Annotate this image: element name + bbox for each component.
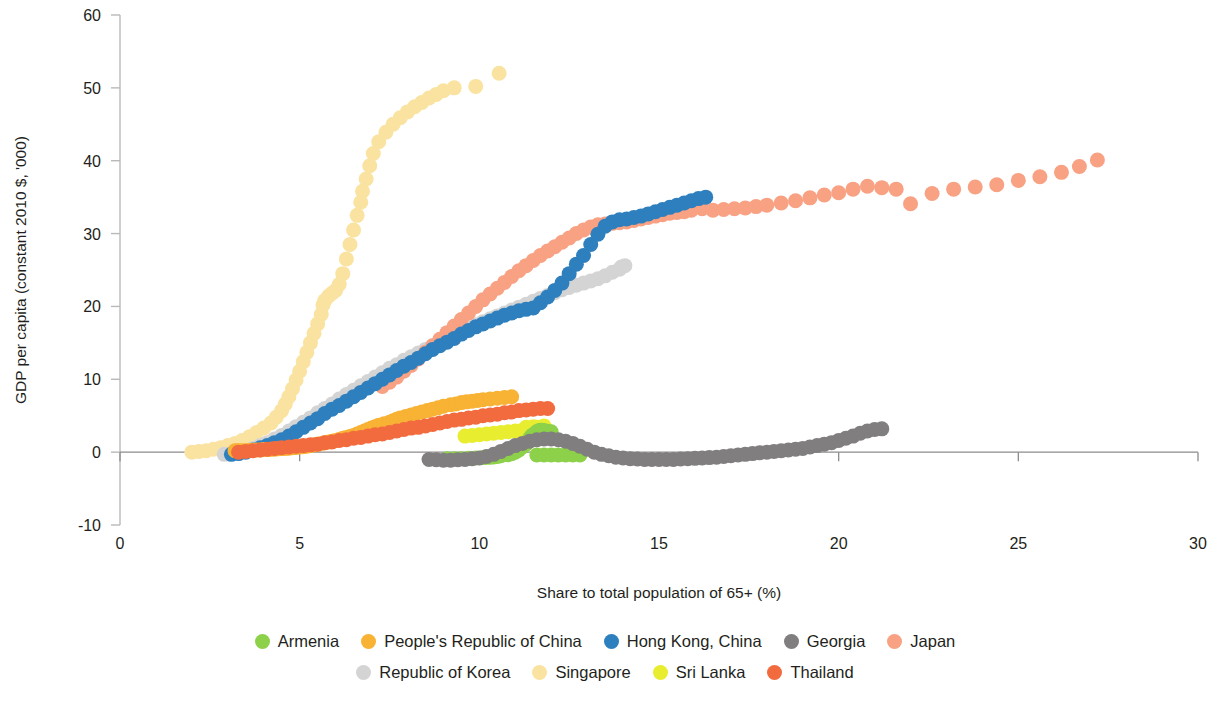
y-tick-label: 50: [83, 80, 101, 97]
data-point: [1011, 173, 1026, 188]
x-tick-label: 5: [295, 535, 304, 552]
legend-swatch-icon: [767, 665, 782, 680]
x-tick-label: 25: [1009, 535, 1027, 552]
data-point: [346, 222, 361, 237]
y-tick-label: -10: [78, 517, 101, 534]
legend-item-sri-lanka[interactable]: Sri Lanka: [653, 663, 746, 682]
data-point: [335, 266, 350, 281]
y-axis-title: GDP per capita (constant 2010 $, '000): [12, 136, 29, 404]
data-point: [698, 190, 713, 205]
legend-swatch-icon: [604, 634, 619, 649]
data-point: [874, 180, 889, 195]
axis-labels-layer: -100102030405060051015202530Share to tot…: [12, 7, 1207, 601]
data-point: [342, 237, 357, 252]
data-point: [540, 401, 555, 416]
legend-item-armenia[interactable]: Armenia: [255, 632, 339, 651]
legend-item-japan[interactable]: Japan: [887, 632, 955, 651]
y-tick-label: 0: [92, 444, 101, 461]
legend-item-singapore[interactable]: Singapore: [532, 663, 630, 682]
legend-label: Republic of Korea: [379, 663, 510, 682]
series-japan: [375, 152, 1105, 394]
x-tick-label: 15: [650, 535, 668, 552]
data-point: [1072, 159, 1087, 174]
x-tick-label: 10: [470, 535, 488, 552]
legend-row: Republic of KoreaSingaporeSri LankaThail…: [0, 657, 1210, 688]
data-point: [759, 198, 774, 213]
data-point: [504, 389, 519, 404]
scatter-chart: -100102030405060051015202530Share to tot…: [0, 0, 1210, 707]
data-point: [831, 185, 846, 200]
x-tick-label: 20: [830, 535, 848, 552]
legend-swatch-icon: [653, 665, 668, 680]
legend-label: Singapore: [555, 663, 630, 682]
legend-label: Thailand: [790, 663, 853, 682]
legend-label: Japan: [910, 632, 955, 651]
data-point: [1032, 169, 1047, 184]
y-tick-label: 30: [83, 226, 101, 243]
data-point: [946, 182, 961, 197]
legend-label: People's Republic of China: [384, 632, 582, 651]
x-tick-label: 30: [1189, 535, 1207, 552]
data-point: [968, 179, 983, 194]
legend-item-hong-kong-china[interactable]: Hong Kong, China: [604, 632, 762, 651]
chart-page: -100102030405060051015202530Share to tot…: [0, 0, 1210, 707]
legend-swatch-icon: [361, 634, 376, 649]
data-point: [860, 179, 875, 194]
legend-label: Armenia: [278, 632, 339, 651]
data-point: [617, 258, 632, 273]
legend-item-republic-of-korea[interactable]: Republic of Korea: [356, 663, 510, 682]
legend-label: Sri Lanka: [676, 663, 746, 682]
data-point: [359, 171, 374, 186]
chart-legend: ArmeniaPeople's Republic of ChinaHong Ko…: [0, 626, 1210, 688]
data-point: [350, 208, 365, 223]
data-point: [774, 195, 789, 210]
legend-label: Hong Kong, China: [627, 632, 762, 651]
legend-item-people-s-republic-of-china[interactable]: People's Republic of China: [361, 632, 582, 651]
legend-swatch-icon: [356, 665, 371, 680]
data-point: [1090, 152, 1105, 167]
data-point: [447, 80, 462, 95]
y-tick-label: 40: [83, 153, 101, 170]
data-point: [468, 79, 483, 94]
data-point: [903, 196, 918, 211]
x-tick-label: 0: [116, 535, 125, 552]
legend-item-thailand[interactable]: Thailand: [767, 663, 853, 682]
data-point: [1054, 165, 1069, 180]
legend-label: Georgia: [807, 632, 866, 651]
data-point: [339, 252, 354, 267]
y-tick-label: 60: [83, 7, 101, 24]
data-points-layer: [184, 66, 1105, 468]
y-tick-label: 10: [83, 371, 101, 388]
data-point: [925, 186, 940, 201]
data-point: [874, 421, 889, 436]
data-point: [492, 66, 507, 81]
legend-row: ArmeniaPeople's Republic of ChinaHong Ko…: [0, 626, 1210, 657]
data-point: [846, 182, 861, 197]
legend-swatch-icon: [784, 634, 799, 649]
legend-item-georgia[interactable]: Georgia: [784, 632, 866, 651]
data-point: [817, 187, 832, 202]
x-axis-title: Share to total population of 65+ (%): [537, 584, 781, 601]
legend-swatch-icon: [887, 634, 902, 649]
data-point: [802, 190, 817, 205]
legend-swatch-icon: [255, 634, 270, 649]
data-point: [989, 177, 1004, 192]
data-point: [889, 182, 904, 197]
legend-swatch-icon: [532, 665, 547, 680]
y-tick-label: 20: [83, 298, 101, 315]
data-point: [788, 193, 803, 208]
